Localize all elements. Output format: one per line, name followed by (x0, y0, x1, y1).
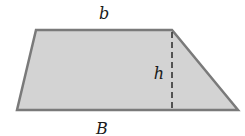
bottom-base-label: B (95, 119, 108, 136)
top-base-label: b (99, 4, 109, 23)
height-label: h (154, 64, 164, 83)
trapezoid-shape (17, 30, 238, 110)
trapezoid-diagram: b h B (0, 0, 245, 136)
